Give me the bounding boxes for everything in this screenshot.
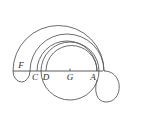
label-D: D bbox=[42, 72, 50, 82]
label-F: F bbox=[17, 60, 24, 70]
label-C: C bbox=[32, 72, 39, 82]
left-cap bbox=[13, 71, 30, 82]
label-A: A bbox=[89, 72, 96, 82]
figure-canvas: F C D G A bbox=[0, 0, 142, 115]
right-cap bbox=[96, 71, 120, 102]
label-G: G bbox=[67, 72, 74, 82]
geometry-figure: F C D G A bbox=[0, 0, 142, 115]
outer-upper-arc bbox=[13, 26, 104, 72]
